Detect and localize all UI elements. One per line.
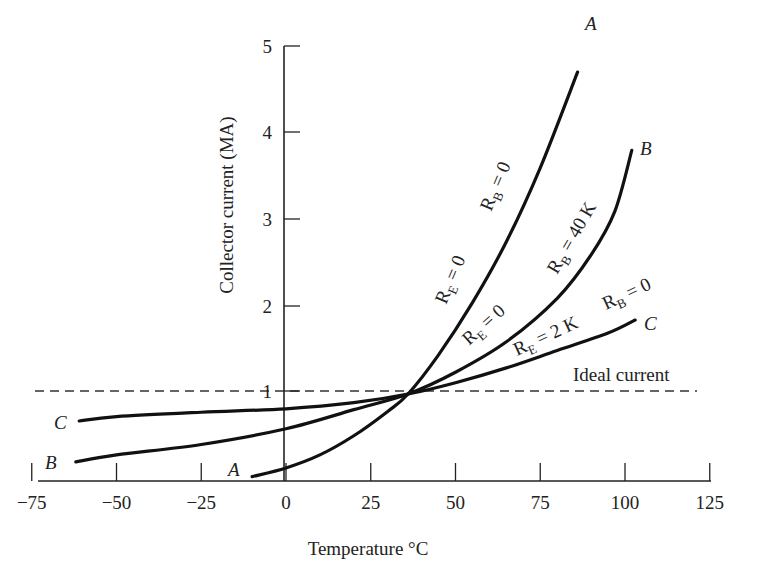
- curve-b-rb-annotation: RB = 40 K: [542, 198, 603, 279]
- x-tick-label: 50: [446, 492, 465, 513]
- y-axis: 12345: [263, 36, 301, 481]
- x-tick-label: 125: [696, 492, 725, 513]
- x-tick-label: −25: [186, 492, 216, 513]
- x-tick-label: −75: [17, 492, 47, 513]
- x-tick-label: 25: [361, 492, 380, 513]
- curve-a: [252, 72, 577, 477]
- curve-c-label-top: C: [644, 313, 657, 334]
- y-tick-label: 2: [263, 296, 273, 317]
- curve-c-rb-annotation: RB = 0: [599, 273, 656, 317]
- curve-a-rb-annotation: RB = 0: [475, 158, 518, 215]
- ideal-current-label: Ideal current: [573, 364, 670, 385]
- curve-a-label-top: A: [583, 13, 597, 34]
- y-tick-label: 3: [263, 209, 273, 230]
- y-tick-label: 1: [263, 381, 273, 402]
- y-axis-title: Collector current (MA): [216, 116, 238, 293]
- x-tick-label: −50: [102, 492, 132, 513]
- x-axis-title: Temperature °C: [308, 538, 429, 559]
- x-tick-label: 100: [611, 492, 640, 513]
- curve-b-label-bottom: B: [45, 452, 57, 473]
- curve-a-re-annotation: RE = 0: [430, 252, 473, 308]
- curve-b-label-top: B: [640, 138, 652, 159]
- x-tick-label: 75: [531, 492, 550, 513]
- y-tick-label: 4: [263, 122, 273, 143]
- temperature-vs-collector-current-chart: −75−50−250255075100125 12345 A B C A B C…: [0, 0, 761, 584]
- y-tick-label: 5: [263, 36, 273, 57]
- curve-c-label-bottom: C: [54, 412, 67, 433]
- x-tick-label: 0: [281, 492, 291, 513]
- x-axis: −75−50−250255075100125: [17, 463, 724, 513]
- curve-a-label-bottom: A: [226, 459, 240, 480]
